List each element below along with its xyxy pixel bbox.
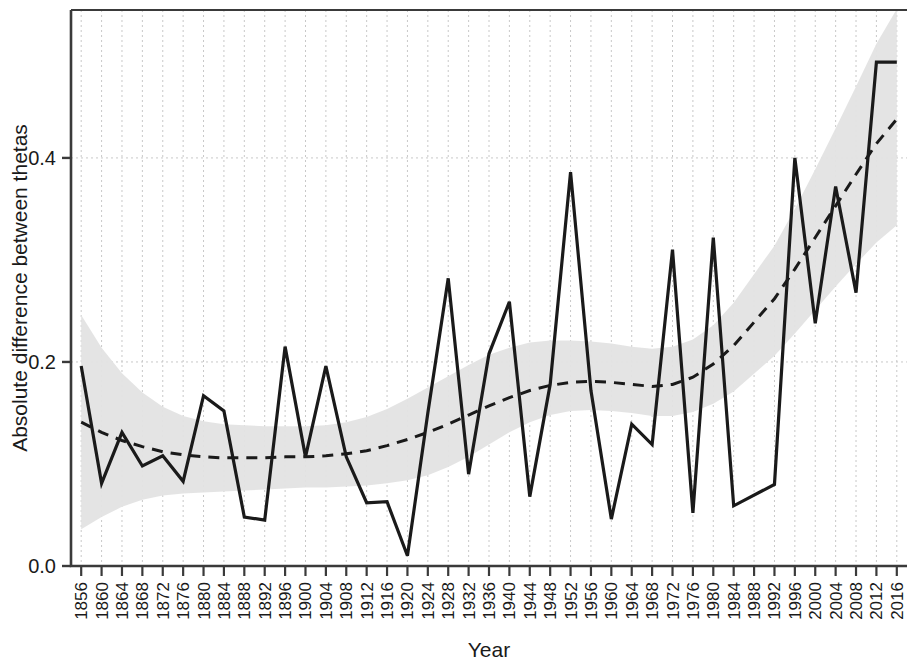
x-tick-label: 1860 <box>93 582 112 620</box>
x-tick-label: 2012 <box>867 582 886 620</box>
x-tick-label: 1952 <box>562 582 581 620</box>
x-tick-label: 1908 <box>337 582 356 620</box>
x-tick-label: 1920 <box>398 582 417 620</box>
x-tick-label: 1872 <box>154 582 173 620</box>
x-tick-label: 1972 <box>664 582 683 620</box>
chart-plot-area: 0.00.20.4 185618601864186818721876188018… <box>0 0 907 663</box>
x-tick-label: 1856 <box>72 582 91 620</box>
x-tick-label: 2008 <box>847 582 866 620</box>
x-axis-label: Year <box>468 638 510 661</box>
x-tick-label: 1896 <box>276 582 295 620</box>
x-tick-label: 1924 <box>419 582 438 620</box>
x-tick-label: 1932 <box>460 582 479 620</box>
x-tick-label: 1944 <box>521 582 540 620</box>
x-tick-label: 1936 <box>480 582 499 620</box>
x-tick-label: 1892 <box>256 582 275 620</box>
x-tick-label: 1960 <box>602 582 621 620</box>
x-tick-label: 1968 <box>643 582 662 620</box>
chart-figure: 0.00.20.4 185618601864186818721876188018… <box>0 0 907 663</box>
x-tick-label: 1980 <box>704 582 723 620</box>
x-tick-label: 1964 <box>623 582 642 620</box>
x-tick-label: 1864 <box>113 582 132 620</box>
x-tick-label: 1992 <box>765 582 784 620</box>
x-tick-label: 1888 <box>235 582 254 620</box>
x-tick-label: 1880 <box>195 582 214 620</box>
x-tick-label: 1988 <box>745 582 764 620</box>
x-tick-label: 1904 <box>317 582 336 620</box>
x-tick-label: 2016 <box>888 582 907 620</box>
x-tick-label: 1928 <box>439 582 458 620</box>
x-tick-label: 1884 <box>215 582 234 620</box>
y-tick-label: 0.0 <box>28 555 56 577</box>
x-tick-label: 1940 <box>500 582 519 620</box>
x-tick-label: 1956 <box>582 582 601 620</box>
x-tick-label: 1976 <box>684 582 703 620</box>
x-tick-label: 2004 <box>827 582 846 620</box>
x-tick-label: 1876 <box>174 582 193 620</box>
y-axis-label: Absolute difference between thetas <box>8 124 31 452</box>
x-tick-label: 1984 <box>725 582 744 620</box>
x-tick-label: 2000 <box>806 582 825 620</box>
y-tick-label: 0.4 <box>28 147 56 169</box>
x-tick-label: 1996 <box>786 582 805 620</box>
x-tick-label: 1948 <box>541 582 560 620</box>
x-tick-label: 1900 <box>296 582 315 620</box>
x-tick-label: 1912 <box>358 582 377 620</box>
x-tick-label: 1868 <box>133 582 152 620</box>
x-tick-label: 1916 <box>378 582 397 620</box>
y-tick-label: 0.2 <box>28 351 56 373</box>
